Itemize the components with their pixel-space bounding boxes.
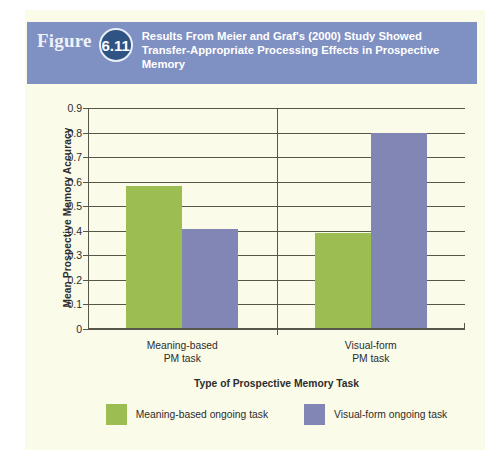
legend-entry: Meaning-based ongoing task	[106, 404, 268, 425]
bar	[371, 133, 427, 328]
y-tick-mark	[83, 206, 88, 207]
legend-swatch	[106, 404, 127, 425]
figure-page: Figure 6.11 Results From Meier and Graf'…	[0, 0, 495, 466]
gridline	[88, 108, 465, 109]
y-tick-mark	[83, 133, 88, 134]
y-tick-label: 0.8	[67, 127, 82, 139]
y-tick-mark	[83, 231, 88, 232]
legend-swatch	[304, 404, 325, 425]
y-tick-label: 0.7	[67, 151, 82, 163]
y-axis-line	[88, 108, 89, 329]
y-tick-mark	[83, 255, 88, 256]
y-tick-mark	[83, 182, 88, 183]
group-divider-line	[277, 108, 278, 329]
legend: Meaning-based ongoing taskVisual-form on…	[88, 404, 465, 425]
bar	[315, 233, 371, 328]
figure-number-badge: 6.11	[99, 28, 133, 62]
figure-label: Figure	[37, 30, 92, 52]
chart: Mean Prospective Memory Accuracy 0.90.80…	[25, 92, 485, 450]
legend-label: Visual-form ongoing task	[334, 409, 447, 420]
legend-entry: Visual-form ongoing task	[304, 404, 447, 425]
y-tick-label: 0.5	[67, 200, 82, 212]
y-tick-label: 0.1	[67, 298, 82, 310]
y-tick-label: 0.9	[67, 102, 82, 114]
plot-area: 0.90.80.70.60.50.40.30.20.10 Meaning-bas…	[88, 108, 465, 329]
y-tick-label: 0.6	[67, 176, 82, 188]
y-tick-mark	[83, 108, 88, 109]
x-axis-title: Type of Prospective Memory Task	[88, 378, 465, 389]
y-tick-label: 0.4	[67, 225, 82, 237]
y-tick-mark	[83, 304, 88, 305]
y-tick-mark	[83, 157, 88, 158]
bar	[126, 186, 182, 328]
figure-caption: Results From Meier and Graf's (2000) Stu…	[142, 29, 472, 72]
bar	[182, 229, 238, 328]
y-tick-label: 0.2	[67, 274, 82, 286]
gridline	[88, 329, 465, 330]
y-tick-label: 0.3	[67, 249, 82, 261]
figure-header-banner: Figure 6.11 Results From Meier and Graf'…	[27, 22, 477, 84]
y-tick-mark	[83, 329, 88, 330]
y-tick-mark	[83, 280, 88, 281]
y-tick-label: 0	[76, 323, 82, 335]
x-category-label: Meaning-basedPM task	[147, 339, 218, 365]
x-category-label: Visual-formPM task	[345, 339, 397, 365]
legend-label: Meaning-based ongoing task	[136, 409, 268, 420]
